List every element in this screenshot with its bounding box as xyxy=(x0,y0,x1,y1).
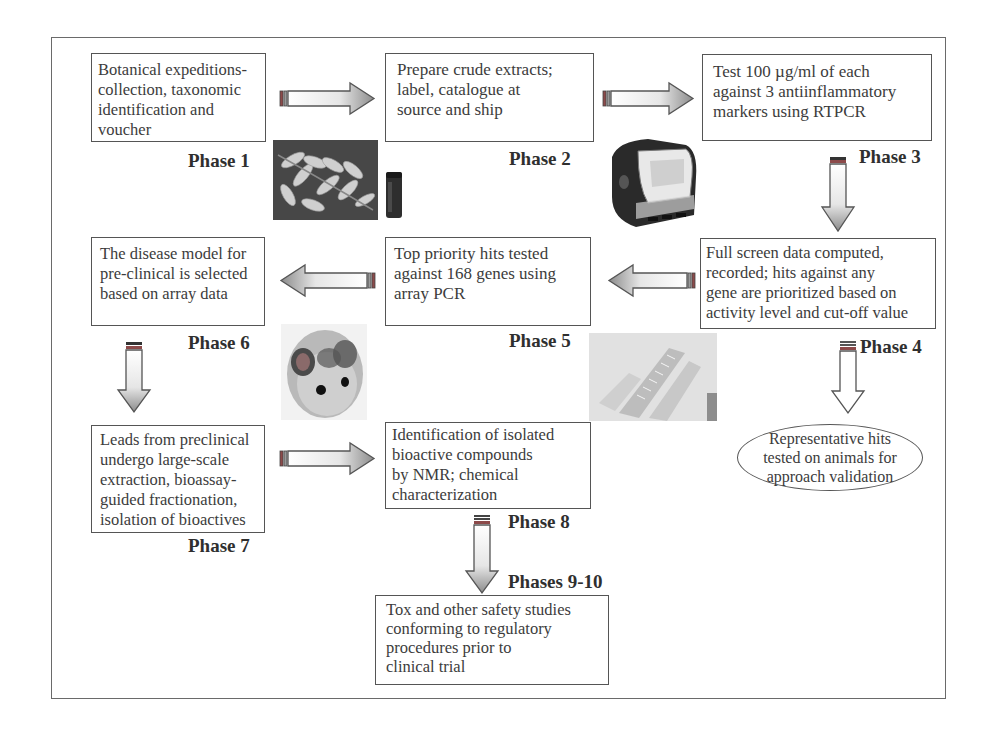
box-line: procedures prior to xyxy=(386,638,598,657)
arrow-down-icon xyxy=(828,339,868,419)
box-line: Botanical expeditions- xyxy=(98,60,259,80)
box-line: label, catalogue at xyxy=(397,80,582,100)
box-line: Full screen data computed, xyxy=(706,243,930,263)
phase7-label: Phase 7 xyxy=(188,535,250,557)
box-line: Prepare crude extracts; xyxy=(397,60,582,80)
box-line: isolation of bioactives xyxy=(100,510,256,530)
box-line: extraction, bioassay- xyxy=(100,470,256,490)
phase9-10-box: Tox and other safety studies conforming … xyxy=(375,595,609,685)
arrow-right-icon xyxy=(601,80,697,116)
box-line: conforming to regulatory xyxy=(386,619,598,638)
phase7-box: Leads from preclinical undergo large-sca… xyxy=(91,425,265,533)
box-line: array PCR xyxy=(394,284,582,304)
box-line: characterization xyxy=(392,485,584,505)
pcr-plates-photo xyxy=(589,333,717,421)
box-line: markers using RTPCR xyxy=(713,102,921,122)
arrow-down-icon xyxy=(462,513,502,595)
box-line: activity level and cut-off value xyxy=(706,303,930,323)
fern-leaf-photo xyxy=(273,140,378,220)
phase5-label: Phase 5 xyxy=(509,330,571,352)
vial-photo xyxy=(385,172,403,218)
ellipse-line: tested on animals for xyxy=(763,448,897,467)
arrow-right-icon xyxy=(278,80,378,116)
box-line: undergo large-scale xyxy=(100,450,256,470)
box-line: Test 100 µg/ml of each xyxy=(713,62,921,82)
box-line: source and ship xyxy=(397,100,582,120)
phase8-label: Phase 8 xyxy=(508,511,570,533)
mouse-photo xyxy=(281,324,367,420)
box-line: by NMR; chemical xyxy=(392,465,584,485)
phase4-label: Phase 4 xyxy=(860,336,922,358)
phase1-box: Botanical expeditions- collection, taxon… xyxy=(91,53,266,142)
ellipse-line: Representative hits xyxy=(763,429,897,448)
phase2-label: Phase 2 xyxy=(509,148,571,170)
phase8-box: Identification of isolated bioactive com… xyxy=(385,422,591,509)
box-line: collection, taxonomic xyxy=(98,80,259,100)
phase2-box: Prepare crude extracts; label, catalogue… xyxy=(385,53,594,142)
box-line: recorded; hits against any xyxy=(706,263,930,283)
arrow-left-icon xyxy=(279,262,379,298)
box-line: Top priority hits tested xyxy=(394,244,582,264)
box-line: gene are prioritized based on xyxy=(706,283,930,303)
phase3-label: Phase 3 xyxy=(859,146,921,168)
box-line: bioactive compounds xyxy=(392,445,584,465)
phase6-box: The disease model for pre-clinical is se… xyxy=(91,237,265,326)
box-line: against 3 antiinflammatory xyxy=(713,82,921,102)
phase3-box: Test 100 µg/ml of each against 3 antiinf… xyxy=(702,54,932,141)
phase1-label: Phase 1 xyxy=(188,150,250,172)
phase5-box: Top priority hits tested against 168 gen… xyxy=(385,237,591,326)
rtpcr-instrument-photo xyxy=(608,137,700,229)
ellipse-line: approach validation xyxy=(763,467,897,486)
box-line: pre-clinical is selected xyxy=(100,264,256,284)
arrow-left-icon xyxy=(605,262,697,298)
box-line: identification and voucher xyxy=(98,100,259,140)
box-line: based on array data xyxy=(100,284,256,304)
box-line: Tox and other safety studies xyxy=(386,600,598,619)
arrow-right-icon xyxy=(278,440,378,476)
arrow-down-icon xyxy=(818,155,858,235)
phase4-box: Full screen data computed, recorded; hit… xyxy=(700,238,936,329)
phase9-10-label: Phases 9-10 xyxy=(508,571,602,593)
box-line: guided fractionation, xyxy=(100,490,256,510)
arrow-down-icon xyxy=(114,340,154,420)
phase6-label: Phase 6 xyxy=(188,332,250,354)
box-line: Identification of isolated xyxy=(392,425,584,445)
box-line: clinical trial xyxy=(386,657,598,676)
box-line: The disease model for xyxy=(100,244,256,264)
box-line: Leads from preclinical xyxy=(100,430,256,450)
box-line: against 168 genes using xyxy=(394,264,582,284)
validation-ellipse: Representative hits tested on animals fo… xyxy=(737,424,923,491)
